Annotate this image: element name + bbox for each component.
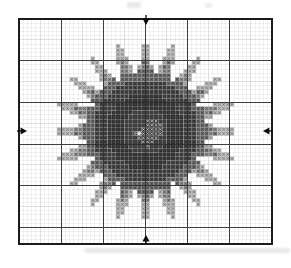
arrow-tail [145, 241, 146, 245]
arrow-head [21, 127, 27, 134]
print-artifact [84, 248, 290, 253]
arrow-head [142, 19, 149, 25]
arrow-head [142, 235, 149, 241]
center-marker-top-arrow-down-icon [139, 14, 153, 28]
center-marker-left-arrow-right-icon [16, 124, 30, 138]
cross-stitch-grid [0, 0, 291, 268]
center-marker-right-arrow-left-icon [260, 124, 274, 138]
arrow-tail [269, 130, 273, 131]
print-artifact [205, 3, 212, 8]
arrow-tail [145, 15, 146, 19]
center-marker-bottom-arrow-up-icon [139, 232, 153, 246]
arrow-tail [17, 130, 21, 131]
print-artifact [127, 2, 141, 8]
pattern-page [0, 0, 291, 268]
arrow-head [263, 127, 269, 134]
